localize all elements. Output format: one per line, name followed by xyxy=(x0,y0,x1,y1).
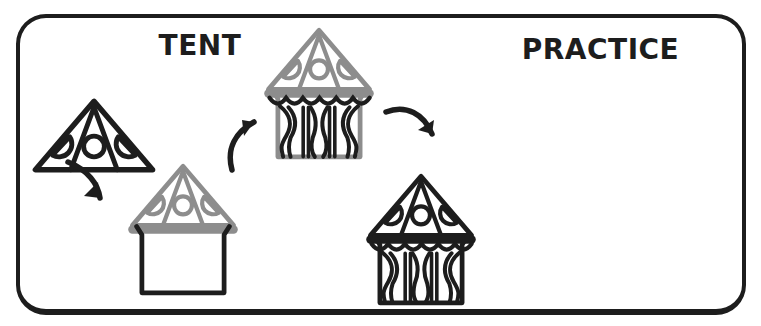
curved-arrow-down-right-glyph xyxy=(378,100,444,152)
tent-step-3-drawing xyxy=(262,24,376,161)
tent-step-2 xyxy=(126,160,240,297)
tent-step-3 xyxy=(262,24,376,161)
page-title: TENT xyxy=(150,29,250,62)
practice-label: PRACTICE xyxy=(518,33,683,66)
curved-arrow-down-right-glyph xyxy=(58,156,118,212)
curved-arrow-up-right-glyph xyxy=(220,112,266,176)
tent-step-4-drawing xyxy=(364,170,478,307)
curved-arrow-down-right-icon xyxy=(378,100,444,152)
curved-arrow-up-right-icon xyxy=(220,112,266,176)
tent-step-2-drawing xyxy=(126,160,240,297)
curved-arrow-down-right-icon xyxy=(58,156,118,212)
practice-area xyxy=(470,90,730,300)
worksheet-page: TENT PRACTICE xyxy=(0,0,761,326)
tent-step-4 xyxy=(364,170,478,307)
